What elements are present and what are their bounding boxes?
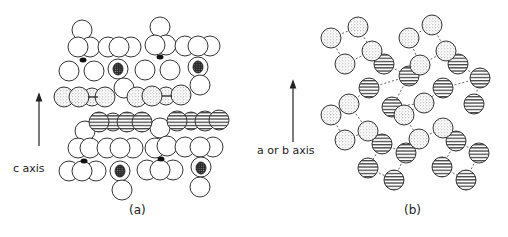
panel-a-caption: (a) [129,203,146,217]
crystal-structure-diagram [0,0,508,237]
panel-b-caption: (b) [404,203,421,217]
c-axis-arrow [37,94,42,146]
c-axis-label: c axis [13,162,45,175]
panel-b-structure [321,15,490,190]
ab-axis-arrow [291,81,296,142]
ab-axis-label: a or b axis [257,144,315,157]
